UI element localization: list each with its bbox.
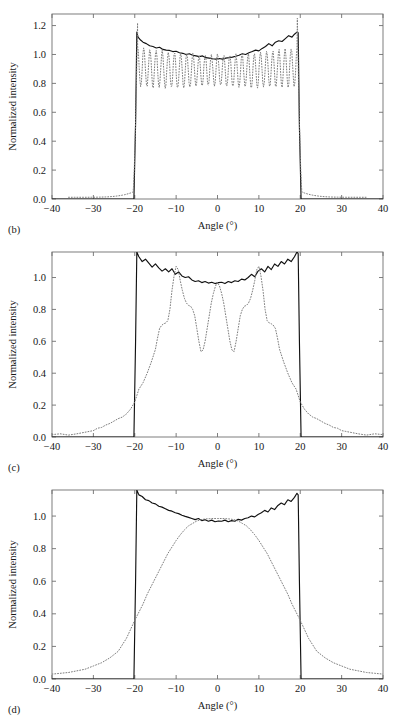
x-tick-label: 20 [295, 683, 306, 694]
x-axis-title: Angle (°) [198, 700, 238, 712]
y-tick-label: 0.6 [33, 576, 46, 587]
y-tick-label: 0.2 [33, 400, 46, 411]
panel-label: (d) [8, 704, 21, 716]
figure-container: −40−30−20−100102030400.00.20.40.60.81.01… [0, 0, 398, 718]
curve-measured [52, 252, 383, 437]
curves [52, 252, 383, 437]
y-tick-label: 0.2 [33, 165, 46, 176]
x-axis-title: Angle (°) [198, 458, 238, 470]
x-tick-label: −30 [85, 203, 101, 214]
plot-area-b: −40−30−20−100102030400.00.20.40.60.81.01… [7, 14, 388, 236]
y-tick-label: 0.4 [33, 608, 47, 619]
x-tick-label: 30 [336, 203, 347, 214]
x-tick-label: 40 [378, 683, 389, 694]
curve-simulated [52, 519, 383, 675]
axes-frame [52, 14, 383, 199]
y-axis-title: Normalized intensity [7, 62, 18, 151]
axes-frame [52, 252, 383, 437]
curves [52, 18, 383, 199]
y-tick-label: 1.0 [33, 49, 46, 60]
y-tick-label: 0.0 [33, 432, 46, 443]
y-tick-label: 0.8 [33, 543, 46, 554]
x-tick-label: 40 [378, 441, 389, 452]
x-tick-label: 30 [336, 441, 347, 452]
curve-simulated [69, 18, 367, 197]
x-tick-label: 10 [254, 203, 265, 214]
y-tick-label: 1.2 [33, 20, 46, 31]
y-tick-label: 0.6 [33, 107, 46, 118]
y-tick-label: 0.4 [33, 368, 47, 379]
x-tick-label: −40 [44, 441, 60, 452]
x-tick-label: 0 [215, 203, 220, 214]
y-tick-label: 0.2 [33, 641, 46, 652]
y-tick-label: 1.0 [33, 511, 46, 522]
x-tick-label: −40 [44, 203, 60, 214]
chart-panel-b: −40−30−20−100102030400.00.20.40.60.81.01… [0, 0, 398, 238]
x-axis-title: Angle (°) [198, 220, 238, 232]
plot-area-d: −40−30−20−100102030400.00.20.40.60.81.0A… [7, 490, 388, 716]
y-tick-label: 0.8 [33, 78, 46, 89]
chart-panel-d: −40−30−20−100102030400.00.20.40.60.81.0A… [0, 476, 398, 718]
curve-simulated [52, 266, 383, 435]
y-tick-label: 0.4 [33, 136, 47, 147]
x-tick-label: 0 [215, 683, 220, 694]
x-tick-label: 20 [295, 203, 306, 214]
x-tick-label: 40 [378, 203, 389, 214]
panel-label: (c) [8, 462, 20, 474]
x-tick-label: 20 [295, 441, 306, 452]
x-tick-label: −10 [168, 203, 184, 214]
plot-area-c: −40−30−20−100102030400.00.20.40.60.81.0A… [7, 252, 388, 474]
x-tick-label: −30 [85, 683, 101, 694]
x-tick-label: −40 [44, 683, 60, 694]
y-tick-label: 0.6 [33, 336, 46, 347]
curves [52, 490, 383, 679]
curve-measured [52, 32, 383, 199]
x-tick-label: −30 [85, 441, 101, 452]
y-axis-title: Normalized intensity [7, 300, 18, 389]
x-tick-label: 30 [336, 683, 347, 694]
x-tick-label: −20 [127, 441, 143, 452]
y-axis-title: Normalized intensity [7, 540, 18, 629]
x-tick-label: 10 [254, 441, 265, 452]
x-tick-label: −20 [127, 683, 143, 694]
y-tick-label: 0.0 [33, 674, 46, 685]
chart-svg-c: −40−30−20−100102030400.00.20.40.60.81.0A… [0, 238, 398, 476]
x-tick-label: 0 [215, 441, 220, 452]
chart-panel-c: −40−30−20−100102030400.00.20.40.60.81.0A… [0, 238, 398, 476]
chart-svg-b: −40−30−20−100102030400.00.20.40.60.81.01… [0, 0, 398, 238]
panel-label: (b) [8, 224, 21, 236]
y-tick-label: 0.0 [33, 194, 46, 205]
x-tick-label: −20 [127, 203, 143, 214]
y-tick-label: 0.8 [33, 304, 46, 315]
x-tick-label: 10 [254, 683, 265, 694]
y-tick-label: 1.0 [33, 272, 46, 283]
chart-svg-d: −40−30−20−100102030400.00.20.40.60.81.0A… [0, 476, 398, 718]
x-tick-label: −10 [168, 441, 184, 452]
x-tick-label: −10 [168, 683, 184, 694]
